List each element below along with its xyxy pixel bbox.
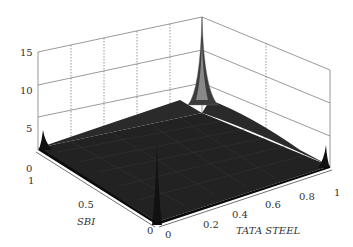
svg-text:0.5: 0.5 bbox=[78, 199, 94, 210]
svg-text:15: 15 bbox=[20, 47, 33, 58]
svg-text:5: 5 bbox=[26, 123, 32, 134]
surface-plot: 15 10 5 0 1 0.5 0 SBI 0 0.2 0.4 0.6 0.8 … bbox=[0, 0, 353, 247]
svg-text:0.2: 0.2 bbox=[203, 219, 219, 230]
svg-text:0.8: 0.8 bbox=[299, 191, 315, 202]
surface-mesh bbox=[38, 17, 330, 225]
z-axis-ticks: 15 10 5 0 bbox=[20, 47, 33, 174]
svg-text:0: 0 bbox=[165, 229, 171, 240]
svg-text:0: 0 bbox=[147, 225, 153, 236]
tata-axis-label: TATA STEEL bbox=[236, 225, 300, 236]
sbi-axis-label: SBI bbox=[77, 216, 96, 227]
svg-text:1: 1 bbox=[28, 175, 34, 186]
svg-text:0.4: 0.4 bbox=[232, 209, 248, 220]
svg-text:0: 0 bbox=[26, 163, 32, 174]
svg-text:0.6: 0.6 bbox=[265, 199, 281, 210]
svg-text:10: 10 bbox=[20, 85, 33, 96]
svg-text:1: 1 bbox=[334, 187, 340, 198]
